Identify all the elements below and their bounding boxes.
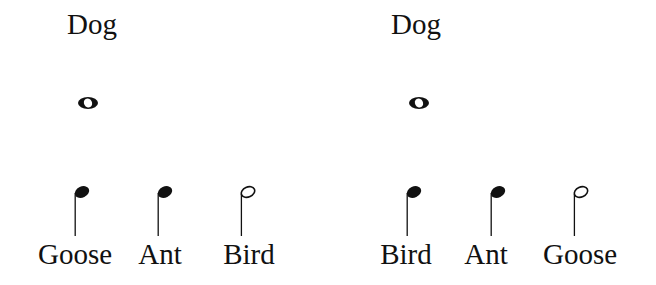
panel-left: Dog Goose Ant Bird <box>0 0 328 285</box>
top-label: Dog <box>67 10 117 39</box>
quarter-note-icon <box>404 185 424 237</box>
half-note-icon <box>571 185 591 237</box>
bottom-label: Bird <box>223 240 275 269</box>
panel-right: Dog Bird Ant Goose <box>328 0 656 285</box>
bottom-label: Ant <box>464 240 508 269</box>
whole-note-icon <box>77 96 99 110</box>
whole-note-icon <box>408 96 430 110</box>
bottom-label: Bird <box>380 240 432 269</box>
quarter-note-icon <box>488 185 508 237</box>
quarter-note-icon <box>155 185 175 237</box>
half-note-icon <box>238 185 258 237</box>
quarter-note-icon <box>72 185 92 237</box>
top-label: Dog <box>391 10 441 39</box>
bottom-label: Ant <box>138 240 182 269</box>
bottom-label: Goose <box>543 240 617 269</box>
bottom-label: Goose <box>38 240 112 269</box>
